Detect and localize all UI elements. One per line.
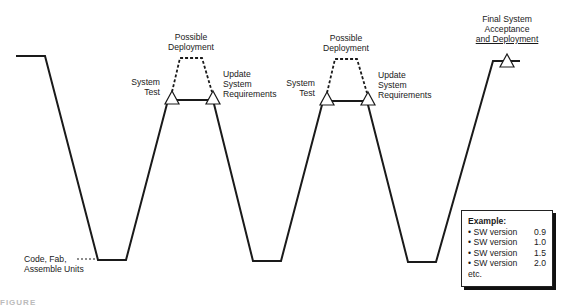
item-label: • SW version xyxy=(468,258,517,269)
label-line: System xyxy=(223,79,277,89)
example-item: • SW version0.9 xyxy=(468,227,546,238)
update-requirements-label-1: Update System Requirements xyxy=(223,69,277,99)
label-line: Update xyxy=(223,69,277,79)
label-line: System xyxy=(378,80,432,90)
milestone-triangle-icon xyxy=(165,91,179,104)
system-test-label-2: System Test xyxy=(281,78,315,98)
possible-deployment-dashed-2 xyxy=(327,59,367,93)
code-fab-label: Code, Fab, Assemble Units xyxy=(24,254,84,274)
example-item: • SW version1.0 xyxy=(468,237,546,248)
item-value: 1.5 xyxy=(534,248,546,259)
item-label: • SW version xyxy=(468,248,517,259)
system-test-label-1: System Test xyxy=(126,77,160,97)
possible-deployment-dashed-1 xyxy=(172,58,212,92)
label-line: Test xyxy=(126,87,160,97)
label-line: Code, Fab, xyxy=(24,254,84,264)
label-line: Deployment xyxy=(163,42,219,52)
label-line: and Deployment xyxy=(472,34,542,44)
item-label: • SW version xyxy=(468,237,517,248)
possible-deployment-label-2: Possible Deployment xyxy=(318,33,374,53)
example-box: Example: • SW version0.9 • SW version1.0… xyxy=(461,210,553,287)
example-title: Example: xyxy=(468,216,546,227)
label-line: Update xyxy=(378,70,432,80)
label-line: Possible xyxy=(163,32,219,42)
label-line: System xyxy=(126,77,160,87)
milestone-triangle-icon xyxy=(320,92,334,105)
update-requirements-label-2: Update System Requirements xyxy=(378,70,432,100)
item-value: 1.0 xyxy=(534,237,546,248)
label-line: Assemble Units xyxy=(24,264,84,274)
label-line: Possible xyxy=(318,33,374,43)
item-value: 2.0 xyxy=(534,258,546,269)
final-acceptance-label: Final System Acceptance and Deployment xyxy=(472,14,542,44)
possible-deployment-label-1: Possible Deployment xyxy=(163,32,219,52)
label-line: Requirements xyxy=(223,89,277,99)
item-label: • SW version xyxy=(468,227,517,238)
label-line: Test xyxy=(281,88,315,98)
label-line: Requirements xyxy=(378,90,432,100)
example-item: • SW version1.5 xyxy=(468,248,546,259)
milestone-triangle-icon xyxy=(361,92,375,105)
example-footer: etc. xyxy=(468,269,546,280)
label-line: Final System xyxy=(472,14,542,24)
label-line: System xyxy=(281,78,315,88)
milestone-triangle-icon xyxy=(206,91,220,104)
example-item: • SW version2.0 xyxy=(468,258,546,269)
label-line: Deployment xyxy=(318,43,374,53)
label-line: Acceptance xyxy=(472,24,542,34)
item-value: 0.9 xyxy=(534,227,546,238)
